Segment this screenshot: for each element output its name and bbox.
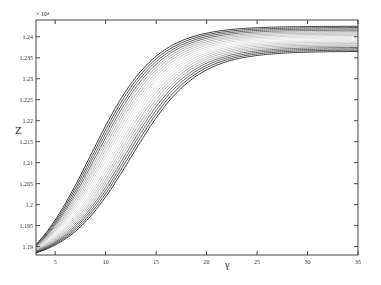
- y-tick-label: 1.21: [23, 160, 34, 166]
- curve-family: [36, 26, 358, 253]
- x-tick-label: 15: [153, 259, 159, 265]
- series-curve: [36, 28, 358, 245]
- y-tick-label: 1.24: [23, 34, 34, 40]
- y-axis-label: Z: [15, 124, 22, 136]
- x-tick-label: 35: [355, 259, 361, 265]
- series-curve: [36, 52, 358, 253]
- y-tick-label: 1.195: [20, 223, 34, 229]
- x-tick-label: 30: [305, 259, 311, 265]
- series-curve: [36, 50, 358, 252]
- y-tick-label: 1.19: [23, 244, 34, 250]
- axes-frame: [36, 20, 358, 255]
- x-tick-label: 5: [54, 259, 57, 265]
- series-curve: [36, 38, 358, 248]
- series-curve: [36, 49, 358, 252]
- x-axis-label: γ: [224, 259, 230, 270]
- x-tick-label: 20: [204, 259, 210, 265]
- series-curve: [36, 33, 358, 247]
- y-tick-label: 1.205: [20, 181, 34, 187]
- y-tick-label: 1.2: [26, 202, 34, 208]
- y-tick-label: 1.215: [20, 139, 34, 145]
- y-multiplier: × 10⁴: [36, 11, 49, 17]
- series-curve: [36, 44, 358, 251]
- y-tick-label: 1.225: [20, 97, 34, 103]
- x-tick-label: 25: [254, 259, 260, 265]
- y-tick-label: 1.235: [20, 55, 34, 61]
- series-curve: [36, 34, 358, 247]
- chart: 5101520253035 1.191.1951.21.2051.211.215…: [0, 0, 381, 285]
- x-tick-label: 10: [103, 259, 109, 265]
- y-tick-label: 1.22: [23, 118, 34, 124]
- y-tick-label: 1.23: [23, 76, 34, 82]
